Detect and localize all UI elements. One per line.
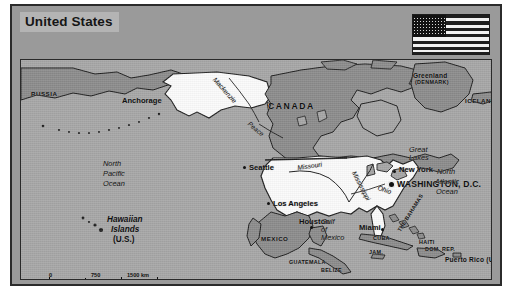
label-gulf-of-mexico-line3: Mexico xyxy=(321,234,344,242)
map-screenshot: United States xyxy=(0,0,515,296)
city-dot-seattle xyxy=(243,166,246,169)
label-cuba: CUBA xyxy=(373,236,390,242)
label-guatemala: GUATEMALA xyxy=(289,260,326,266)
label-jamaica: JAM. xyxy=(369,250,383,256)
label-iceland: ICELAND xyxy=(465,98,492,105)
map-plate: United States xyxy=(10,4,502,286)
city-dot-new-york xyxy=(393,170,396,173)
label-hawaii-line2: Islands xyxy=(111,226,139,235)
label-haiti: HAITI xyxy=(419,240,435,246)
label-north-atlantic-line1: North xyxy=(437,168,455,176)
label-north-pacific-line3: Ocean xyxy=(103,180,125,188)
map-canvas: RUSSIA Anchorage CANADA Greenland (DENMA… xyxy=(20,59,492,280)
label-great-lakes-line2: Lakes xyxy=(409,154,429,162)
label-north-atlantic-line2: Atlantic xyxy=(435,178,459,186)
label-anchorage: Anchorage xyxy=(122,97,162,105)
capital-dot-washington-dc xyxy=(389,182,394,187)
label-greenland-denmark: (DENMARK) xyxy=(415,80,449,86)
label-hawaii-line3: (U.S.) xyxy=(113,236,134,245)
us-flag-icon xyxy=(412,14,490,55)
flag-canton xyxy=(413,15,446,37)
label-canada: CANADA xyxy=(268,102,315,111)
label-hawaii-line1: Hawaiian xyxy=(107,216,143,225)
label-north-pacific-line2: Pacific xyxy=(103,170,125,178)
label-seattle: Seattle xyxy=(249,164,274,172)
label-mexico: MEXICO xyxy=(261,236,288,243)
city-dot-houston xyxy=(310,226,313,229)
city-dot-miami xyxy=(381,228,384,231)
label-new-york: New York xyxy=(399,166,433,174)
label-belize: BELIZE xyxy=(321,268,342,274)
scale-km-mid: 750 xyxy=(91,272,100,278)
label-miami: Miami xyxy=(359,224,381,232)
label-north-pacific-line1: North xyxy=(103,160,121,168)
label-dom-rep: DOM. REP. xyxy=(425,247,455,253)
scale-km-end: 1500 km xyxy=(127,272,149,278)
label-russia: RUSSIA xyxy=(31,91,57,98)
city-dot-los-angeles xyxy=(267,202,270,205)
label-north-atlantic-line3: Ocean xyxy=(436,188,458,196)
label-los-angeles: Los Angeles xyxy=(273,200,318,208)
label-puerto-rico: Puerto Rico (U.S) xyxy=(445,256,492,263)
page-title: United States xyxy=(20,12,119,32)
